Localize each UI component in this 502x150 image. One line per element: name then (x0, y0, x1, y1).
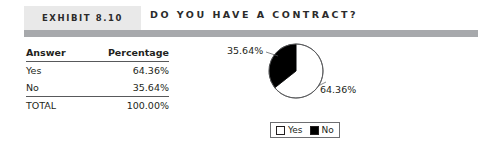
table-body: Yes 64.36% No 35.64% TOTAL 100.00% (26, 62, 169, 115)
page-title: Do You Have a Contract? (150, 9, 358, 20)
cell-total-percentage: 100.00% (86, 97, 169, 115)
column-header-percentage: Percentage (86, 44, 169, 62)
results-table: Answer Percentage Yes 64.36% No 35.64% T… (26, 44, 169, 114)
exhibit-number-label: Exhibit 8.10 (42, 13, 123, 23)
table-header-row: Answer Percentage (26, 44, 169, 62)
legend-swatch-no-icon (310, 126, 319, 135)
legend-item-yes: Yes (276, 125, 303, 135)
cell-total-label: TOTAL (26, 97, 86, 115)
table-total-row: TOTAL 100.00% (26, 97, 169, 115)
pie-data-label-yes: 64.36% (320, 84, 356, 95)
legend-item-no: No (310, 125, 334, 135)
legend-swatch-yes-icon (276, 126, 285, 135)
legend-label-no: No (322, 125, 334, 135)
table-row: Yes 64.36% (26, 62, 169, 80)
column-header-answer: Answer (26, 44, 86, 62)
header-divider-bar (24, 30, 478, 37)
exhibit-number-badge: Exhibit 8.10 (24, 6, 141, 30)
cell-answer: No (26, 79, 86, 97)
cell-percentage: 35.64% (86, 79, 169, 97)
cell-percentage: 64.36% (86, 62, 169, 80)
pie-chart: 35.64% 64.36% Yes No (222, 40, 492, 150)
pie-data-label-no: 35.64% (227, 45, 263, 56)
table-row: No 35.64% (26, 79, 169, 97)
cell-answer: Yes (26, 62, 86, 80)
exhibit-header: Exhibit 8.10 Do You Have a Contract? (0, 0, 502, 40)
legend-label-yes: Yes (288, 125, 303, 135)
table-header: Answer Percentage (26, 44, 169, 62)
chart-legend: Yes No (270, 122, 340, 138)
